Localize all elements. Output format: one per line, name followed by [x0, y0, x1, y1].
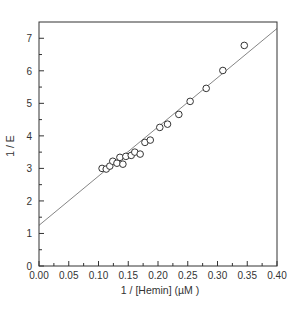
- x-tick-label: 0.30: [208, 270, 228, 281]
- data-point: [241, 42, 248, 49]
- data-point: [176, 111, 183, 118]
- data-point: [164, 121, 171, 128]
- x-tick-label: 0.05: [59, 270, 79, 281]
- x-tick-label: 0.00: [29, 270, 49, 281]
- y-tick-label: 2: [26, 196, 32, 207]
- data-point: [220, 67, 227, 74]
- x-tick-label: 0.25: [178, 270, 198, 281]
- data-point: [187, 98, 194, 105]
- y-axis-label: 1 / E: [4, 135, 16, 157]
- x-tick-label: 0.15: [119, 270, 139, 281]
- data-point: [137, 151, 144, 158]
- x-tick-label: 0.40: [267, 270, 287, 281]
- y-axis-ticks: 01234567: [26, 33, 44, 272]
- x-axis-label: 1 / [Hemin] (µM ): [121, 284, 199, 296]
- data-points: [99, 42, 248, 172]
- data-point: [156, 124, 163, 131]
- y-tick-label: 4: [26, 131, 32, 142]
- y-tick-label: 1: [26, 228, 32, 239]
- y-tick-label: 6: [26, 66, 32, 77]
- chart: 0.000.050.100.150.200.250.300.350.40 012…: [0, 0, 303, 312]
- y-tick-label: 3: [26, 163, 32, 174]
- y-tick-label: 0: [26, 261, 32, 272]
- x-axis-ticks: 0.000.050.100.150.200.250.300.350.40: [29, 261, 287, 281]
- y-tick-label: 7: [26, 33, 32, 44]
- y-tick-label: 5: [26, 98, 32, 109]
- data-point: [203, 85, 210, 92]
- data-point: [147, 137, 154, 144]
- x-tick-label: 0.20: [148, 270, 168, 281]
- x-tick-label: 0.35: [238, 270, 258, 281]
- data-point: [120, 161, 127, 168]
- x-tick-label: 0.10: [89, 270, 109, 281]
